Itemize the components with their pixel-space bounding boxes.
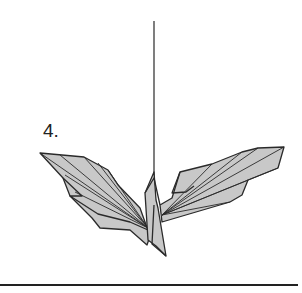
left-wing (40, 153, 150, 245)
origami-diagram (0, 0, 302, 293)
right-wing (160, 147, 284, 222)
